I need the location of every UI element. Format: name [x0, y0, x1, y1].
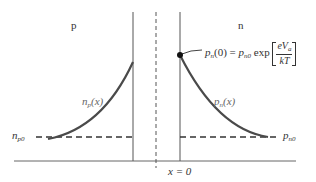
numerator-text: eV — [277, 40, 288, 51]
pn-curve-label: pn(x) — [214, 96, 235, 109]
right-bracket — [292, 42, 296, 66]
numerator-sub: a — [288, 45, 292, 53]
eq-func: exp — [251, 46, 272, 58]
equation-leader — [182, 50, 202, 54]
pn0-sub: n0 — [289, 135, 296, 143]
pn0-label: pn0 — [283, 130, 296, 143]
eq-lhs-arg: (0) = — [214, 46, 239, 58]
n-region-label: n — [238, 20, 244, 31]
pn-arg: (x) — [223, 95, 235, 107]
fraction-denominator: kT — [276, 55, 292, 66]
np-arg: (x) — [91, 95, 103, 107]
np0-sub: p0 — [18, 135, 25, 143]
pn-junction-diagram: p n pn(0) = pn0 exp eVakT np(x) pn(x) np… — [0, 0, 316, 182]
origin-label: x = 0 — [168, 166, 191, 177]
boundary-equation: pn(0) = pn0 exp eVakT — [205, 41, 296, 66]
np-curve-label: np(x) — [82, 96, 103, 109]
exponent-fraction: eVakT — [276, 41, 292, 66]
boundary-dot — [177, 52, 183, 58]
p-region-label: p — [71, 20, 77, 31]
np0-label: np0 — [12, 130, 25, 143]
diagram-graphics — [0, 0, 316, 182]
fraction-numerator: eVa — [276, 41, 292, 55]
eq-rhs-sub: n0 — [244, 52, 251, 60]
